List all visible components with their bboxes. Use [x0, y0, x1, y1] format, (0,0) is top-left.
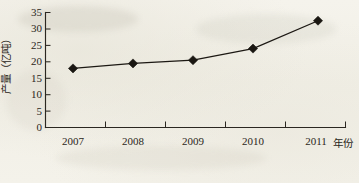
y-axis-ticks	[46, 13, 51, 112]
x-axis-title: 年份	[333, 139, 353, 150]
y-tick-label-15: 15	[20, 73, 42, 84]
y-tick-label-0: 0	[20, 122, 42, 133]
x-tick-label-2007: 2007	[53, 136, 93, 147]
y-tick-label-35: 35	[20, 7, 42, 18]
data-point-2007	[68, 64, 77, 73]
data-point-markers	[68, 16, 322, 73]
data-point-2009	[188, 56, 197, 65]
data-point-2010	[248, 44, 257, 53]
x-tick-label-2011: 2011	[296, 136, 336, 147]
x-tick-label-2008: 2008	[113, 136, 153, 147]
y-tick-label-30: 30	[20, 23, 42, 34]
line-chart-figure: 35 30 25 20 15 10 5 0 2007 2008 2009 201…	[0, 0, 359, 183]
x-axis-ticks	[106, 122, 346, 128]
y-tick-label-5: 5	[20, 106, 42, 117]
y-tick-label-10: 10	[20, 89, 42, 100]
x-tick-label-2009: 2009	[173, 136, 213, 147]
data-point-2008	[128, 59, 137, 68]
scanned-page: 35 30 25 20 15 10 5 0 2007 2008 2009 201…	[0, 0, 359, 183]
y-tick-label-20: 20	[20, 56, 42, 67]
x-tick-label-2010: 2010	[233, 136, 273, 147]
y-tick-label-25: 25	[20, 40, 42, 51]
data-point-2011	[313, 16, 322, 25]
chart-plot-area	[0, 0, 359, 183]
y-axis-title: 产量（亿吨）	[2, 34, 13, 94]
